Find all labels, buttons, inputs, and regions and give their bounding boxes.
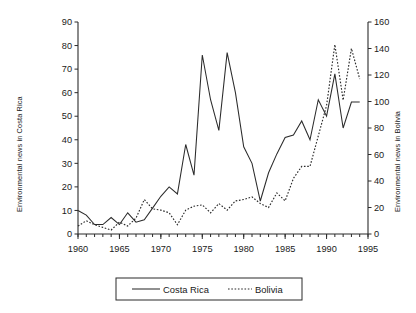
right-tick-label: 120 (374, 70, 389, 80)
chart-figure: 0102030405060708090 02040608010012014016… (0, 0, 416, 313)
x-tick-label: 1970 (151, 244, 171, 254)
x-tick-label: 1980 (233, 244, 253, 254)
series-line-bolivia (78, 45, 360, 231)
right-tick-label: 140 (374, 44, 389, 54)
right-tick-label: 40 (374, 176, 384, 186)
left-axis-title: Environmental news in Costa Rica (15, 95, 24, 212)
dual-axis-line-chart: 0102030405060708090 02040608010012014016… (0, 0, 416, 313)
x-tick-label: 1960 (68, 244, 88, 254)
right-tick-label: 60 (374, 150, 384, 160)
left-tick-label: 10 (62, 206, 72, 216)
right-axis-title: Environmental news in Bolivia (393, 110, 402, 212)
right-tick-label: 80 (374, 123, 384, 133)
x-tick-label: 1985 (275, 244, 295, 254)
right-tick-label: 20 (374, 203, 384, 213)
x-axis-ticks: 19601965197019751980198519901995 (68, 234, 378, 254)
legend-label-bolivia: Bolivia (255, 284, 283, 295)
series-group (78, 45, 360, 231)
chart-legend: Costa Rica Bolivia (116, 278, 302, 300)
left-tick-label: 70 (62, 64, 72, 74)
x-tick-label: 1975 (192, 244, 212, 254)
left-tick-label: 80 (62, 41, 72, 51)
legend-label-costa-rica: Costa Rica (163, 284, 210, 295)
left-tick-label: 60 (62, 88, 72, 98)
left-tick-label: 30 (62, 159, 72, 169)
right-tick-label: 160 (374, 17, 389, 27)
right-axis-ticks: 020406080100120140160 (368, 17, 389, 239)
left-tick-label: 40 (62, 135, 72, 145)
x-tick-label: 1990 (316, 244, 336, 254)
left-tick-label: 20 (62, 182, 72, 192)
right-tick-label: 100 (374, 97, 389, 107)
series-line-costa-rica (78, 53, 360, 225)
left-axis-ticks: 0102030405060708090 (62, 17, 78, 239)
left-tick-label: 0 (67, 229, 72, 239)
x-tick-label: 1995 (358, 244, 378, 254)
right-tick-label: 0 (374, 229, 379, 239)
x-tick-label: 1965 (109, 244, 129, 254)
left-tick-label: 90 (62, 17, 72, 27)
axes-group (78, 22, 368, 234)
left-tick-label: 50 (62, 111, 72, 121)
